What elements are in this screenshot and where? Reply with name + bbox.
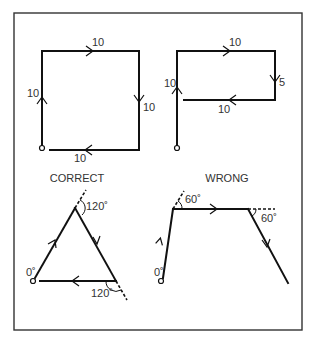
rect-label-up: 10 [164,77,176,89]
rect-label-left: 10 [218,103,230,115]
angle-arc-top [80,200,85,215]
rectangle-path: 10 10 5 10 [164,36,285,151]
correct-title: CORRECT [50,172,105,184]
square-path: 10 10 10 10 [27,36,155,164]
extension-line-bottom [116,281,127,300]
correct-start-angle-label: 0˚ [26,266,36,278]
wrong-right-angle-label: 60˚ [261,212,277,224]
square-label-up: 10 [27,87,39,99]
correct-top-angle-label: 120˚ [86,200,108,212]
square-label-left: 10 [74,152,86,164]
wrong-side-left-lower [163,209,173,278]
correct-bottom-angle-label: 120˚ [91,287,113,299]
square-label-down: 10 [143,101,155,113]
start-point-marker [40,146,45,151]
square-label-right: 10 [92,36,104,48]
angle-arc-right [252,209,256,216]
start-point-marker [31,279,36,284]
wrong-path-panel: WRONG 60˚ 60˚ 0˚ [154,172,288,284]
correct-triangle-panel: CORRECT 120˚ 120˚ 0˚ [26,172,127,300]
rect-label-down: 5 [279,76,285,88]
wrong-title: WRONG [205,172,248,184]
rect-label-right: 10 [229,36,241,48]
wrong-left-angle-label: 60˚ [185,193,201,205]
triangle-side-right [75,208,116,281]
start-point-marker [175,146,180,151]
diagram-canvas: 10 10 10 10 10 10 5 10 CORRECT [0,0,310,339]
start-point-marker [159,279,164,284]
angle-arc-left [178,201,182,209]
extension-line-left [173,191,184,209]
arrow-icon [155,237,163,245]
wrong-start-angle-label: 0˚ [154,266,164,278]
